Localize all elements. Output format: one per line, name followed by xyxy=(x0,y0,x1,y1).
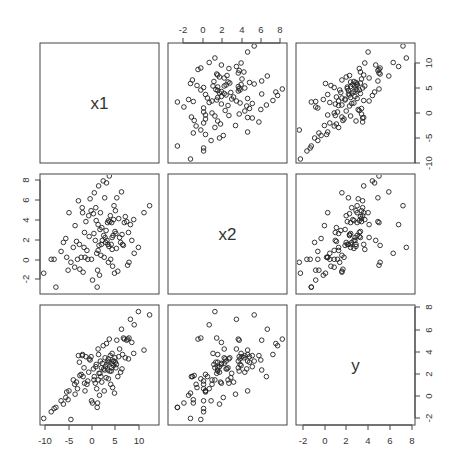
tick-label: 0 xyxy=(423,393,434,398)
scatter-panel-y-vs-x2 xyxy=(296,174,415,294)
tick-label: 0 xyxy=(20,257,31,262)
tick-label: -5 xyxy=(423,134,434,142)
bottom-axis-x1: -10-50510 xyxy=(38,425,144,446)
diagonal-panel-x2: x2 xyxy=(168,174,287,294)
tick-label: 6 xyxy=(258,24,263,35)
tick-label: 10 xyxy=(134,435,145,446)
scatter-panel-x1-vs-y xyxy=(40,305,159,425)
tick-label: 8 xyxy=(20,177,31,182)
panel-frame xyxy=(168,305,287,425)
scatterplot-matrix: x1x2y-202468-10-50510-202468-202468-10-5… xyxy=(0,0,457,472)
tick-label: 0 xyxy=(423,110,434,115)
tick-label: 4 xyxy=(20,217,31,222)
scatter-panel-y-vs-x1 xyxy=(296,43,415,163)
tick-label: 8 xyxy=(277,24,282,35)
tick-label: 2 xyxy=(219,24,224,35)
tick-label: -10 xyxy=(38,435,52,446)
variable-label: x2 xyxy=(219,225,237,244)
bottom-axis-x2: -202468 xyxy=(299,425,415,446)
diagonal-panel-y: y xyxy=(296,305,415,425)
tick-label: -2 xyxy=(20,275,31,283)
tick-label: 2 xyxy=(423,371,434,376)
tick-label: 6 xyxy=(20,197,31,202)
tick-label: 4 xyxy=(423,349,434,354)
tick-label: -2 xyxy=(179,24,187,35)
variable-label: y xyxy=(351,356,360,375)
tick-label: -5 xyxy=(65,435,73,446)
tick-label: 2 xyxy=(343,435,348,446)
tick-label: -2 xyxy=(423,414,434,422)
tick-label: 4 xyxy=(365,435,370,446)
tick-label: 5 xyxy=(112,435,117,446)
top-axis-x2: -202468 xyxy=(179,24,283,43)
left-axis-x2: -202468 xyxy=(20,177,40,283)
right-axis-row1: -10-50510 xyxy=(415,58,434,170)
tick-label: 6 xyxy=(423,327,434,332)
variable-label: x1 xyxy=(91,94,109,113)
tick-label: 0 xyxy=(322,435,327,446)
scatter-panel-x2-vs-y xyxy=(168,305,287,425)
tick-label: 8 xyxy=(409,435,414,446)
tick-label: 6 xyxy=(387,435,392,446)
scatter-panel-x1-vs-x2 xyxy=(40,174,159,294)
tick-label: 2 xyxy=(20,237,31,242)
tick-label: 0 xyxy=(200,24,205,35)
right-axis-y: -202468 xyxy=(415,304,434,422)
tick-label: 4 xyxy=(239,24,244,35)
tick-label: 5 xyxy=(423,85,434,90)
tick-label: -10 xyxy=(423,156,434,170)
diagonal-panel-x1: x1 xyxy=(40,43,159,163)
tick-label: -2 xyxy=(299,435,307,446)
tick-label: 8 xyxy=(423,304,434,309)
panel-frame xyxy=(40,174,159,294)
tick-label: 0 xyxy=(89,435,94,446)
scatter-panel-x2-vs-x1 xyxy=(168,43,287,163)
tick-label: 10 xyxy=(423,58,434,69)
